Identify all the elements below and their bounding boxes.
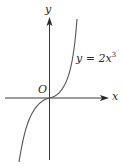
equation-base: y = 2x	[76, 52, 112, 65]
graph-canvas	[0, 0, 124, 167]
y-axis-label: y	[45, 4, 51, 15]
equation-exponent: 3	[112, 51, 116, 59]
x-axis-label: x	[112, 91, 118, 102]
cubic-curve	[19, 19, 77, 162]
origin-label: O	[38, 84, 47, 95]
equation-label: y = 2x3	[76, 52, 116, 64]
